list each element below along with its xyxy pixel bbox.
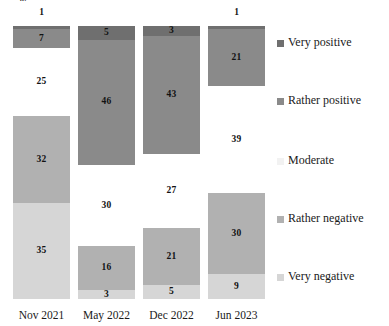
bar-segment-value: 21	[167, 252, 177, 262]
bar-segment-mo[interactable]: 25	[13, 48, 70, 116]
legend-item-mo[interactable]: Moderate	[277, 154, 389, 168]
bar-segment-value: 25	[37, 77, 47, 87]
legend-item-rn[interactable]: Rather negative	[277, 212, 389, 226]
bar-segment-value: 35	[37, 246, 47, 256]
legend-swatch-icon	[277, 158, 284, 165]
bar-column[interactable]: 7253235	[13, 26, 70, 299]
bar-segment-vn[interactable]: 5	[143, 285, 200, 299]
bar-column[interactable]: 34327215	[143, 26, 200, 299]
chart-legend: Very positiveRather positiveModerateRath…	[277, 0, 389, 326]
legend-item-vn[interactable]: Very negative	[277, 270, 389, 284]
bar-segment-rn[interactable]: 21	[143, 228, 200, 286]
bar-segment-value: 16	[102, 263, 112, 273]
bar-segment-value: 32	[37, 155, 47, 165]
bar-segment-rp[interactable]: 43	[143, 36, 200, 154]
bar-segment-value: 7	[39, 34, 44, 44]
bar-segment-value-outside: 1	[204, 8, 269, 18]
x-axis-tick-label: Jun 2023	[204, 309, 269, 322]
bar-segment-value: 46	[102, 97, 112, 107]
legend-item-label: Very negative	[288, 270, 354, 284]
x-axis-tick-label: Nov 2021	[9, 309, 74, 322]
bar-segment-vn[interactable]: 35	[13, 203, 70, 299]
legend-item-vp[interactable]: Very positive	[277, 36, 389, 50]
bar-segment-value: 5	[169, 287, 174, 297]
bar-segment-value: 21	[232, 53, 242, 63]
bar-segment-value: 30	[232, 229, 242, 239]
bar-segment-mo[interactable]: 30	[78, 165, 135, 247]
legend-swatch-icon	[277, 40, 284, 47]
bar-segment-rn[interactable]: 32	[13, 116, 70, 203]
bar-group[interactable]: 12139309Jun 2023	[204, 0, 269, 326]
bar-segment-value: 27	[167, 186, 177, 196]
bar-segment-value: 3	[169, 26, 174, 36]
bar-segment-rp[interactable]: 7	[13, 29, 70, 48]
bar-segment-rp[interactable]: 46	[78, 40, 135, 165]
bar-segment-vp[interactable]: 3	[143, 26, 200, 36]
x-axis-tick-label: Dec 2022	[139, 309, 204, 322]
bar-group[interactable]: 54630163May 2022	[74, 0, 139, 326]
bar-segment-value: 5	[104, 28, 109, 38]
legend-item-rp[interactable]: Rather positive	[277, 94, 389, 108]
legend-swatch-icon	[277, 98, 284, 105]
legend-item-label: Moderate	[288, 154, 334, 168]
x-axis-tick-label: May 2022	[74, 309, 139, 322]
legend-swatch-icon	[277, 216, 284, 223]
bar-segment-rn[interactable]: 16	[78, 246, 135, 289]
legend-item-label: Rather positive	[288, 94, 361, 108]
bar-segment-value: 3	[104, 290, 109, 300]
bar-column[interactable]: 2139309	[208, 26, 265, 299]
legend-item-label: Very positive	[288, 36, 352, 50]
bar-segment-mo[interactable]: 39	[208, 86, 265, 192]
bar-segment-value: 43	[167, 90, 177, 100]
bar-segment-vp[interactable]: 5	[78, 26, 135, 40]
bar-segment-value: 30	[102, 201, 112, 211]
legend-item-label: Rather negative	[288, 212, 364, 226]
bar-group[interactable]: 34327215Dec 2022	[139, 0, 204, 326]
bar-column[interactable]: 54630163	[78, 26, 135, 299]
bar-segment-mo[interactable]: 27	[143, 154, 200, 228]
bar-segment-rn[interactable]: 30	[208, 193, 265, 275]
bar-segment-vn[interactable]: 3	[78, 290, 135, 300]
plot-area: 17253235Nov 202154630163May 202234327215…	[0, 0, 272, 326]
legend-swatch-icon	[277, 274, 284, 281]
bar-segment-value-outside: 1	[9, 8, 74, 18]
stacked-bar-chart: % 17253235Nov 202154630163May 2022343272…	[0, 0, 389, 326]
bar-segment-rp[interactable]: 21	[208, 29, 265, 86]
bar-segment-value: 9	[234, 282, 239, 292]
bar-group[interactable]: 17253235Nov 2021	[9, 0, 74, 326]
bar-segment-value: 39	[232, 135, 242, 145]
bar-segment-vn[interactable]: 9	[208, 274, 265, 299]
